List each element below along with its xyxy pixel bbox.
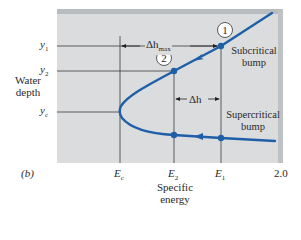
x-end-value-label: 2.0 [274,167,288,179]
supercritical-point-e1 [218,135,224,141]
delta-h-label: Δh [189,93,202,105]
y1-tick-label: y1 [40,38,48,55]
state-point-2 [171,68,177,74]
e1-tick-label: E1 [215,167,225,184]
yc-tick-label: yc [40,104,48,121]
panel-label: (b) [21,167,34,179]
x-axis-title: Specific energy [150,181,200,205]
point-1-label: 1 [219,24,231,36]
delta-h-max-label: Δhmax [145,38,172,55]
supercritical-direction-arrow-icon [194,133,203,140]
y-axis-title: Water depth [6,74,50,98]
ec-tick-label: Ec [114,167,124,184]
supercritical-point-e2 [171,132,177,138]
supercritical-bump-annotation: Supercritical bump [222,109,284,133]
subcritical-bump-annotation: Subcritical bump [228,45,280,69]
state-point-1 [218,43,224,49]
